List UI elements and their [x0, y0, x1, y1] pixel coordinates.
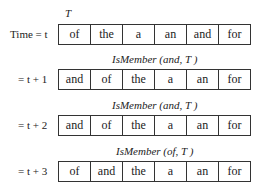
- row-label: = t + 3: [18, 165, 47, 177]
- array-row: and of the a an for: [58, 115, 251, 136]
- array-cell: a: [155, 162, 187, 181]
- row-caption: IsMember (and, T ): [112, 99, 197, 111]
- array-cell: and: [59, 116, 91, 135]
- array-cell: of: [59, 162, 91, 181]
- row-label: Time = t: [10, 28, 48, 40]
- array-cell: an: [187, 70, 219, 89]
- row-caption: T: [65, 7, 71, 19]
- row-caption: IsMember (of, T ): [116, 145, 193, 157]
- array-cell: a: [155, 70, 187, 89]
- array-cell: a: [123, 25, 155, 44]
- array-row: of and the a an for: [58, 161, 251, 182]
- array-cell: an: [155, 25, 187, 44]
- array-cell: the: [123, 162, 155, 181]
- array-cell: an: [187, 116, 219, 135]
- array-cell: a: [155, 116, 187, 135]
- array-cell: for: [219, 162, 250, 181]
- array-cell: the: [123, 70, 155, 89]
- array-cell: and: [91, 162, 123, 181]
- row-label: = t + 1: [18, 73, 47, 85]
- array-cell: and: [59, 70, 91, 89]
- array-cell: the: [91, 25, 123, 44]
- row-label: = t + 2: [18, 119, 47, 131]
- array-cell: for: [219, 116, 250, 135]
- array-cell: the: [123, 116, 155, 135]
- array-row: of the a an and for: [58, 24, 251, 45]
- array-cell: of: [59, 25, 91, 44]
- array-cell: of: [91, 70, 123, 89]
- array-cell: an: [187, 162, 219, 181]
- array-cell: for: [219, 25, 250, 44]
- array-cell: of: [91, 116, 123, 135]
- array-cell: and: [187, 25, 219, 44]
- array-cell: for: [219, 70, 250, 89]
- array-row: and of the a an for: [58, 69, 251, 90]
- row-caption: IsMember (and, T ): [112, 53, 197, 65]
